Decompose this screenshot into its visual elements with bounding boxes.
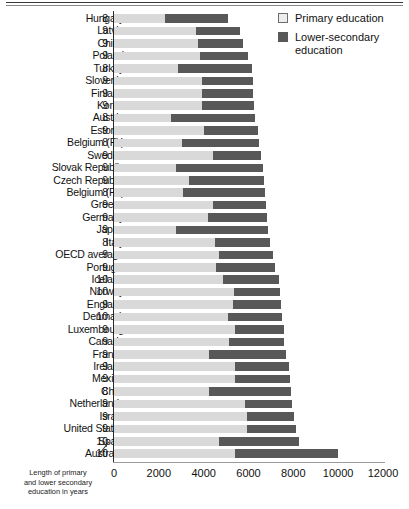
bar-segment-lower-secondary — [208, 213, 267, 222]
stacked-bar — [114, 139, 259, 148]
bar-segment-lower-secondary — [247, 425, 296, 434]
table-row: Spain10 — [0, 436, 409, 448]
stacked-bar — [114, 300, 281, 309]
table-row: Ireland9 — [0, 361, 409, 373]
bar-years-value: 9 — [96, 149, 108, 161]
table-row: Slovenia9 — [0, 75, 409, 87]
bar-segment-primary — [114, 437, 219, 446]
x-axis-tick-label: 4000 — [191, 466, 215, 480]
bar-years-value: 9 — [96, 198, 108, 210]
bar-segment-lower-secondary — [171, 114, 255, 123]
table-row: Finland9 — [0, 88, 409, 100]
stacked-bar — [114, 176, 264, 185]
bar-years-value: 9 — [96, 348, 108, 360]
footnote-line-1: Length of primary — [6, 468, 110, 478]
bar-segment-primary — [114, 362, 235, 371]
bar-segment-lower-secondary — [235, 449, 338, 458]
table-row: Chile8 — [0, 386, 409, 398]
bar-segment-primary — [114, 27, 196, 36]
bar-segment-primary — [114, 14, 165, 23]
bar-years-value: 9 — [96, 360, 108, 372]
footnote-line-3: education in years — [6, 487, 110, 497]
bar-segment-primary — [114, 238, 215, 247]
bar-segment-lower-secondary — [176, 226, 268, 235]
bar-years-value: 9 — [96, 410, 108, 422]
table-row: Belgium (Fl.)8 — [0, 137, 409, 149]
bar-segment-primary — [114, 338, 229, 347]
bar-years-value: 8 — [96, 136, 108, 148]
bar-segment-lower-secondary — [219, 251, 273, 260]
bar-years-value: 9 — [96, 49, 108, 61]
bar-segment-lower-secondary — [213, 201, 266, 210]
bar-segment-lower-secondary — [196, 27, 240, 36]
bar-segment-lower-secondary — [209, 387, 291, 396]
bar-years-value: 9 — [96, 211, 108, 223]
stacked-bar — [114, 387, 291, 396]
bar-segment-primary — [114, 52, 200, 61]
bar-years-value: 8 — [96, 111, 108, 123]
bar-segment-primary — [114, 213, 208, 222]
table-row: Italy8 — [0, 237, 409, 249]
stacked-bar — [114, 39, 243, 48]
legend-item-lower-secondary: Lower-secondary education — [278, 31, 406, 57]
bar-years-value: 9 — [96, 372, 108, 384]
bar-segment-primary — [114, 387, 209, 396]
bar-segment-lower-secondary — [245, 400, 292, 409]
bar-years-value: 8 — [96, 236, 108, 248]
top-divider-dark — [6, 2, 403, 3]
bar-segment-lower-secondary — [165, 14, 228, 23]
bar-segment-primary — [114, 101, 202, 110]
table-row: United States9 — [0, 423, 409, 435]
bar-segment-lower-secondary — [215, 238, 270, 247]
stacked-bar — [114, 164, 263, 173]
bar-years-value: 9 — [96, 87, 108, 99]
bar-segment-primary — [114, 288, 234, 297]
stacked-bar — [114, 64, 252, 73]
chart-container: Hungary8Latvia9China9Poland9Turkey8Slove… — [0, 0, 409, 509]
bar-segment-primary — [114, 126, 204, 135]
bar-segment-primary — [114, 164, 176, 173]
stacked-bar — [114, 437, 299, 446]
bar-segment-primary — [114, 313, 228, 322]
bar-segment-lower-secondary — [176, 164, 263, 173]
stacked-bar — [114, 375, 290, 384]
table-row: Japan9 — [0, 224, 409, 236]
legend-label-lower-secondary: Lower-secondary — [295, 31, 379, 43]
stacked-bar — [114, 400, 292, 409]
table-row: Belgium (Fr.)8 — [0, 187, 409, 199]
bar-segment-lower-secondary — [216, 263, 275, 272]
legend-item-primary: Primary education — [278, 12, 406, 25]
table-row: Denmark10 — [0, 311, 409, 323]
table-row: Germany9 — [0, 212, 409, 224]
legend-label-lower-secondary-line2: education — [295, 44, 406, 57]
bar-years-value: 9 — [96, 323, 108, 335]
stacked-bar — [114, 188, 265, 197]
stacked-bar — [114, 325, 284, 334]
stacked-bar — [114, 449, 338, 458]
bar-segment-primary — [114, 449, 235, 458]
bar-segment-lower-secondary — [189, 176, 264, 185]
stacked-bar — [114, 263, 275, 272]
table-row: Mexico9 — [0, 373, 409, 385]
bar-years-value: 8 — [96, 62, 108, 74]
bar-segment-lower-secondary — [204, 126, 257, 135]
stacked-bar — [114, 52, 249, 61]
bar-segment-primary — [114, 251, 219, 260]
bar-years-value: 9 — [96, 223, 108, 235]
bar-segment-primary — [114, 400, 245, 409]
x-axis-tick-label: 8000 — [281, 466, 305, 480]
bar-segment-lower-secondary — [209, 350, 286, 359]
bar-segment-lower-secondary — [223, 275, 278, 284]
bar-years-value: 8 — [96, 186, 108, 198]
bar-years-value: 9 — [96, 174, 108, 186]
bar-segment-lower-secondary — [235, 325, 284, 334]
bar-segment-primary — [114, 350, 209, 359]
table-row: OECD average9 — [0, 249, 409, 261]
bar-years-value: 10 — [96, 273, 108, 285]
bar-years-value: 10 — [96, 285, 108, 297]
stacked-bar — [114, 226, 268, 235]
stacked-bar — [114, 275, 279, 284]
table-row: Czech Republic9 — [0, 175, 409, 187]
stacked-bar — [114, 338, 284, 347]
bar-years-value: 9 — [96, 261, 108, 273]
